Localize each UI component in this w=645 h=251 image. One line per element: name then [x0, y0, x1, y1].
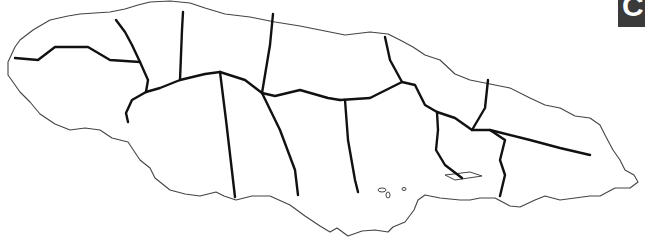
border-standrew-stthomas	[490, 130, 505, 196]
border-trelawny-stann	[262, 14, 273, 93]
border-stelizabeth-manchester-north	[220, 72, 340, 100]
border-stcatherine-standrew	[436, 112, 462, 178]
border-stmary-portland	[472, 80, 488, 130]
palisadoes	[445, 172, 482, 180]
border-stann-south	[340, 82, 437, 112]
border-hanover-westmoreland	[15, 47, 140, 62]
corner-tab-glyph: C	[622, 0, 644, 21]
border-hanover-stjames	[116, 20, 148, 92]
border-westmoreland-stelizabeth	[126, 92, 146, 122]
border-standrew-north	[437, 112, 590, 155]
cay	[378, 188, 386, 192]
border-stelizabeth-manchester	[220, 72, 235, 197]
cay	[386, 192, 390, 198]
border-manchester-clarendon	[262, 93, 298, 195]
coastline	[8, 1, 638, 236]
cay	[402, 188, 406, 191]
jamaica-outline-map	[0, 0, 645, 251]
border-trelawny-west	[180, 12, 183, 80]
border-stjames-westmoreland-stelizabeth	[146, 72, 220, 92]
corner-tab: C	[618, 0, 645, 27]
border-stann-stmary	[385, 37, 402, 82]
border-clarendon-stcatherine	[345, 100, 358, 192]
